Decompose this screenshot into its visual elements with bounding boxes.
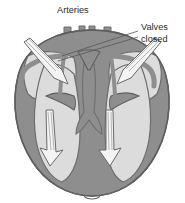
- arteries-label: Arteries: [57, 5, 89, 15]
- heart-diagram-figure: Arteries Valves closed: [0, 0, 185, 203]
- heart-cross-section-svg: Arteries Valves closed: [0, 0, 185, 203]
- valves-closed-label-line1: Valves: [141, 22, 168, 32]
- valves-closed-label-line2: closed: [141, 34, 168, 44]
